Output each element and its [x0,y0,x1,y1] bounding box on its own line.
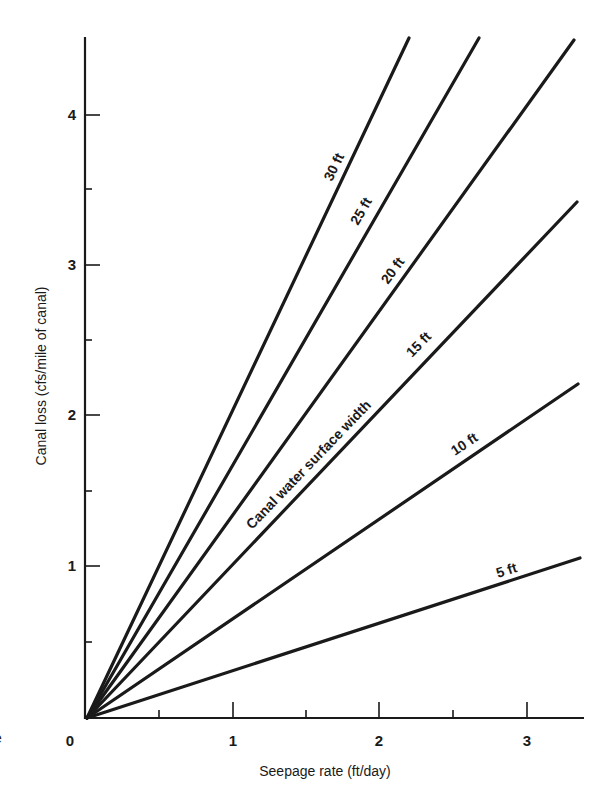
label-20ft: 20 ft [377,254,407,287]
line-25ft [87,38,479,718]
y-axis-title: Canal loss (cfs/mile of canal) [33,287,49,466]
x-ticks [159,702,527,718]
edge-fragment: e [0,730,2,746]
series-lines [87,38,580,718]
y-tick-4: 4 [68,106,77,123]
chart-canvas: 4 3 2 1 0 1 2 3 Seepage rate (ft/day) Ca… [0,0,605,803]
line-15ft [87,202,577,718]
y-tick-3: 3 [68,256,76,273]
x-axis-title: Seepage rate (ft/day) [259,763,391,779]
y-tick-2: 2 [68,406,76,423]
x-tick-2: 2 [375,732,383,749]
annotation-canal-width: Canal water surface width [243,397,374,532]
y-tick-1: 1 [68,557,76,574]
x-tick-0: 0 [66,732,74,749]
y-ticks [85,115,100,642]
x-tick-3: 3 [523,732,531,749]
line-20ft [87,40,574,718]
x-tick-1: 1 [229,732,237,749]
line-30ft [87,38,409,718]
